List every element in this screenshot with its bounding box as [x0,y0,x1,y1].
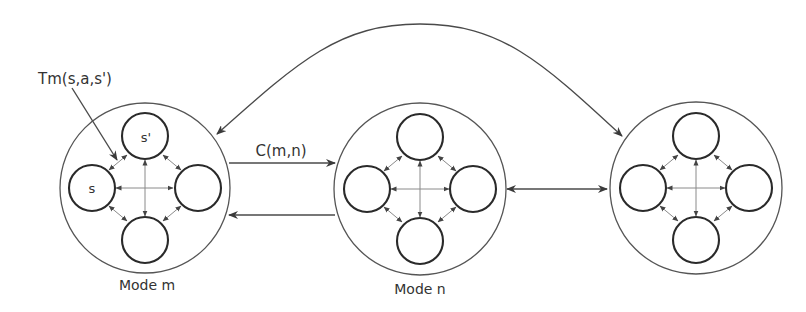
state-label-s: s [89,181,96,196]
mode-n-label: Mode n [394,281,445,297]
state-right [726,165,772,211]
inner-links [384,156,456,222]
state-bottom [673,217,719,263]
state-right [175,165,221,211]
state-top [673,113,719,159]
state-left [344,166,390,212]
transition-function-label: Tm(s,a,s') [37,70,112,88]
inner-links [109,155,181,221]
mode-n: Mode n [334,103,506,297]
mode-m-label: Mode m [119,277,175,293]
mode-m: s' s Mode m [60,103,230,293]
state-right [450,166,496,212]
mode-transition-diagram: s' s Mode m Mode n [0,0,806,312]
state-top [397,114,443,160]
inner-links [660,155,732,221]
state-bottom [397,218,443,264]
tm-annotation-arrow [72,88,117,160]
state-bottom [122,217,168,263]
mode-switch-cost-label: C(m,n) [255,142,306,160]
mode-third [610,102,782,274]
state-label-s-prime: s' [141,130,151,145]
state-left [620,165,666,211]
